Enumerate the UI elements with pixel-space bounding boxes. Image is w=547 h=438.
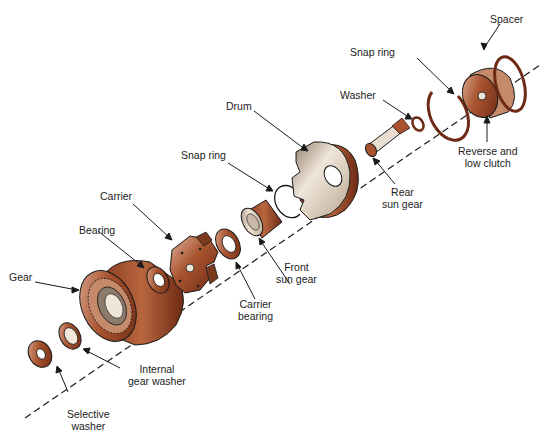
axis-line	[25, 65, 540, 418]
internal-gear-washer-part	[54, 319, 85, 353]
label-washer: Washer	[340, 89, 376, 101]
exploded-gear-diagram	[0, 0, 547, 438]
rear-snap-ring-part	[428, 92, 468, 140]
label-rear-sun-gear: Rear sun gear	[382, 186, 423, 210]
label-gear: Gear	[9, 271, 32, 283]
drum-part	[292, 142, 358, 220]
label-snap-ring-rear: Snap ring	[350, 46, 395, 58]
front-sun-gear-part	[237, 200, 282, 239]
label-front-sun-gear: Front sun gear	[276, 261, 317, 285]
reverse-low-clutch-part	[457, 68, 515, 122]
label-drum: Drum	[226, 100, 252, 112]
label-internal-gear-washer: Internal gear washer	[128, 363, 186, 387]
selective-washer-part	[23, 336, 56, 371]
label-carrier-bearing: Carrier bearing	[238, 298, 273, 322]
washer-part	[410, 115, 426, 132]
rear-sun-gear-part	[363, 118, 410, 159]
label-spacer: Spacer	[490, 13, 523, 25]
label-selective-washer: Selective washer	[67, 408, 110, 432]
label-carrier: Carrier	[100, 190, 132, 202]
label-snap-ring-front: Snap ring	[181, 149, 226, 161]
carrier-part	[170, 232, 218, 293]
label-bearing: Bearing	[79, 224, 115, 236]
label-reverse-low-clutch: Reverse and low clutch	[458, 145, 518, 169]
